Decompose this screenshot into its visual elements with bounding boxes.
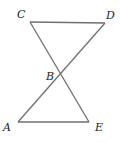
segment-da — [18, 23, 105, 122]
segment-ce — [30, 22, 89, 122]
label-c: C — [17, 8, 26, 21]
geometry-diagram: C D B A E — [0, 0, 120, 143]
label-d: D — [105, 9, 115, 22]
label-e: E — [94, 121, 103, 134]
label-a: A — [2, 121, 11, 134]
segment-cd — [30, 22, 105, 23]
label-b: B — [45, 70, 54, 83]
